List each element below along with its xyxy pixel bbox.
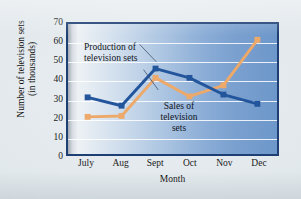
production-annotation-line2: television sets bbox=[84, 53, 176, 64]
y-tick-50: 50 bbox=[41, 56, 63, 66]
data-point-marker bbox=[187, 94, 193, 100]
data-point-marker bbox=[85, 114, 91, 120]
plot-area: Production of television sets Sales of t… bbox=[66, 22, 279, 156]
sales-annotation-line1: Sales of bbox=[146, 101, 212, 112]
y-axis-title-line2: (in thousands) bbox=[27, 0, 38, 144]
data-point-marker bbox=[153, 66, 159, 72]
data-point-marker bbox=[220, 82, 226, 88]
y-axis-title: Number of television sets (in thousands) bbox=[16, 0, 38, 144]
data-point-marker bbox=[153, 75, 159, 81]
data-point-marker bbox=[254, 37, 260, 43]
production-annotation-line1: Production of bbox=[84, 42, 176, 53]
x-axis-title: Month bbox=[66, 174, 279, 184]
sales-annotation-line2: television bbox=[146, 112, 212, 123]
data-point-marker bbox=[220, 92, 226, 98]
y-tick-40: 40 bbox=[41, 75, 63, 85]
chart-screenshot: Number of television sets (in thousands)… bbox=[0, 0, 301, 199]
production-annotation: Production of television sets bbox=[84, 42, 176, 64]
y-axis-title-line1: Number of television sets bbox=[16, 0, 27, 144]
data-point-marker bbox=[85, 94, 91, 100]
sales-annotation-line3: sets bbox=[146, 123, 212, 134]
y-tick-70: 70 bbox=[41, 18, 63, 28]
y-tick-20: 20 bbox=[41, 114, 63, 124]
data-point-marker bbox=[119, 113, 125, 119]
data-point-marker bbox=[254, 101, 260, 107]
y-tick-0: 0 bbox=[41, 152, 63, 162]
x-tick-dec: Dec bbox=[239, 159, 279, 169]
data-point-marker bbox=[119, 103, 125, 109]
x-axis-tick-labels: July Aug Sept Oct Nov Dec bbox=[66, 159, 279, 171]
y-tick-30: 30 bbox=[41, 95, 63, 105]
sales-annotation: Sales of television sets bbox=[146, 101, 212, 134]
y-tick-10: 10 bbox=[41, 133, 63, 143]
y-axis-tick-labels: 70 60 50 40 30 20 10 0 bbox=[38, 22, 63, 156]
y-tick-60: 60 bbox=[41, 37, 63, 47]
data-point-marker bbox=[187, 75, 193, 81]
